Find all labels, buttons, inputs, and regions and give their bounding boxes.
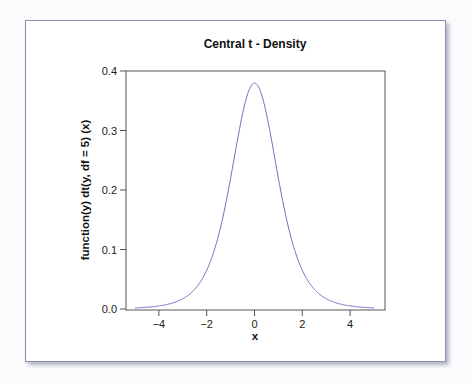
- x-tick-label: 2: [299, 318, 305, 330]
- x-tick-label: 0: [251, 318, 257, 330]
- x-tick-label: −4: [153, 318, 166, 330]
- x-tick-label: 4: [347, 318, 353, 330]
- x-axis-label: x: [252, 330, 259, 342]
- chart-svg: Central t - Density 0.00.10.20.30.4 −4−2…: [0, 0, 472, 383]
- y-tick-label: 0.2: [102, 184, 117, 196]
- plot-box: [126, 71, 385, 310]
- chart-title: Central t - Density: [204, 37, 307, 51]
- y-tick-label: 0.4: [102, 65, 117, 77]
- y-tick-label: 0.0: [102, 303, 117, 315]
- x-tick-label: −2: [200, 318, 213, 330]
- y-tick-label: 0.1: [102, 244, 117, 256]
- y-axis-label: function(y) dt(y, df = 5) (x): [79, 120, 91, 261]
- density-curve: [135, 83, 374, 308]
- y-tick-label: 0.3: [102, 125, 117, 137]
- y-axis: 0.00.10.20.30.4: [102, 65, 126, 315]
- x-axis: −4−2024: [153, 310, 354, 330]
